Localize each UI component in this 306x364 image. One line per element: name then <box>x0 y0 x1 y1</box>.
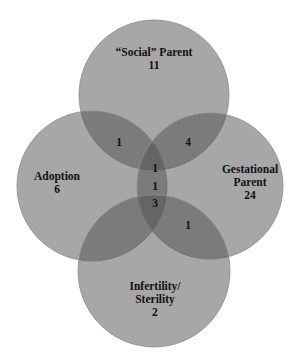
intersection-social-adoption: 1 <box>116 136 122 149</box>
intersection-gestational-infertility: 1 <box>185 219 191 232</box>
intersection-social-gestational: 4 <box>185 136 191 149</box>
set-count: 24 <box>222 189 278 202</box>
set-label-gestational-parent: Gestational Parent 24 <box>222 163 278 202</box>
set-count: 11 <box>116 59 193 72</box>
set-label-infertility-sterility: Infertility/ Sterility 2 <box>129 280 180 319</box>
set-name: “Social” Parent <box>116 46 193 59</box>
intersection-center-bottom: 3 <box>152 197 158 210</box>
circle-infertility-sterility <box>78 195 230 347</box>
venn-diagram: “Social” Parent 11 Adoption 6 Gestationa… <box>0 0 306 364</box>
set-name: Infertility/ <box>129 280 180 293</box>
intersection-center-top: 1 <box>152 162 158 175</box>
set-label-adoption: Adoption 6 <box>34 170 80 196</box>
set-count: 6 <box>34 183 80 196</box>
set-name-line2: Parent <box>222 176 278 189</box>
set-name-line2: Sterility <box>129 293 180 306</box>
set-name: Gestational <box>222 163 278 176</box>
intersection-center-middle: 1 <box>152 180 158 193</box>
set-label-social-parent: “Social” Parent 11 <box>116 46 193 72</box>
set-count: 2 <box>129 306 180 319</box>
set-name: Adoption <box>34 170 80 183</box>
